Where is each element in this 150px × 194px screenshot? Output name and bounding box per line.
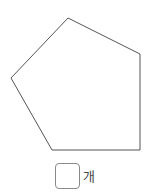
answer-input[interactable] — [55, 163, 80, 189]
pentagon-figure — [0, 0, 150, 160]
pentagon-outline — [11, 18, 140, 150]
unit-label: 개 — [83, 170, 95, 184]
